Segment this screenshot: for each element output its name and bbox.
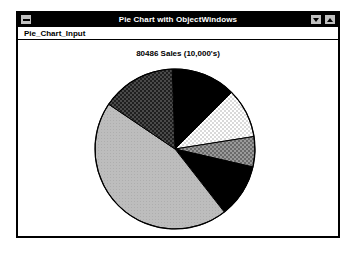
system-menu-glyph xyxy=(23,19,30,21)
system-menu-icon[interactable] xyxy=(20,14,32,25)
pie-chart xyxy=(92,66,258,232)
menu-item-pie-chart-input[interactable]: Pie_Chart_Input xyxy=(22,29,87,38)
window-client-area: 80486 Sales (10,000's) xyxy=(18,40,338,236)
chevron-up-icon xyxy=(327,18,333,22)
window-controls xyxy=(310,14,336,25)
pie-slices xyxy=(95,69,255,229)
window-title: Pie Chart with ObjectWindows xyxy=(119,15,237,24)
screen: Pie Chart with ObjectWindows Pie_Chart_I… xyxy=(0,0,354,257)
chart-title: 80486 Sales (10,000's) xyxy=(18,49,338,58)
pie-chart-svg xyxy=(92,66,258,232)
menu-bar: Pie_Chart_Input xyxy=(18,27,338,40)
chevron-down-icon xyxy=(313,18,319,22)
pie-chart-window: Pie Chart with ObjectWindows Pie_Chart_I… xyxy=(16,11,340,238)
maximize-button[interactable] xyxy=(324,14,336,25)
minimize-button[interactable] xyxy=(310,14,322,25)
window-title-bar[interactable]: Pie Chart with ObjectWindows xyxy=(18,13,338,27)
